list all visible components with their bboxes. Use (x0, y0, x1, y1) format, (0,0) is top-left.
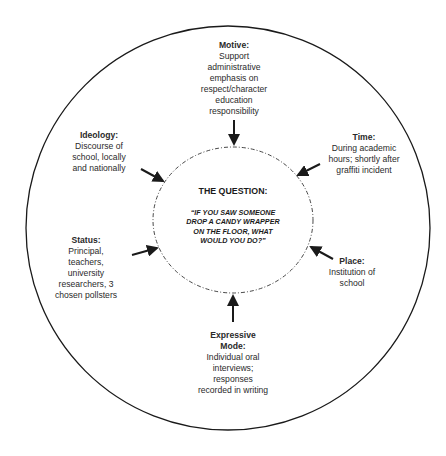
node-line: school (312, 278, 392, 289)
center-title: THE QUESTION: (163, 186, 303, 196)
node-title: Place: (312, 256, 392, 267)
question-line: “IF YOU SAW SOMEONE (163, 208, 303, 217)
node-ideology: Ideology: Discourse of school, locally a… (54, 130, 144, 174)
node-line: university (40, 268, 132, 279)
node-line: interviews; (178, 363, 288, 374)
node-line: Individual oral (178, 352, 288, 363)
node-title: Motive: (184, 40, 284, 51)
node-line: emphasis on (184, 73, 284, 84)
node-line: chosen pollsters (40, 290, 132, 301)
node-title: Time: (314, 132, 414, 143)
node-line: researchers, 3 (40, 279, 132, 290)
node-line: respect/character (184, 84, 284, 95)
node-line: and nationally (54, 163, 144, 174)
node-motive: Motive: Support administrative emphasis … (184, 40, 284, 117)
question-line: DROP A CANDY WRAPPER (163, 217, 303, 226)
arrow-status (132, 248, 157, 255)
center-question: “IF YOU SAW SOMEONE DROP A CANDY WRAPPER… (163, 208, 303, 246)
node-line: Principal, (40, 246, 132, 257)
node-line: responsibility (184, 106, 284, 117)
node-title: Expressive (178, 330, 288, 341)
node-line: education (184, 95, 284, 106)
node-line: graffiti incident (314, 165, 414, 176)
question-line: WOULD YOU DO?” (163, 236, 303, 245)
node-title: Mode: (178, 341, 288, 352)
node-line: recorded in writing (178, 385, 288, 396)
node-line: Support (184, 51, 284, 62)
question-line: ON THE FLOOR, WHAT (163, 227, 303, 236)
node-title: Status: (40, 235, 132, 246)
node-line: Discourse of (54, 141, 144, 152)
node-line: responses (178, 374, 288, 385)
node-line: hours; shortly after (314, 154, 414, 165)
node-line: administrative (184, 62, 284, 73)
node-line: During academic (314, 143, 414, 154)
node-time: Time: During academic hours; shortly aft… (314, 132, 414, 176)
arrow-ideology (141, 169, 163, 181)
node-expressive-mode: Expressive Mode: Individual oral intervi… (178, 330, 288, 396)
node-line: teachers, (40, 257, 132, 268)
node-line: school, locally (54, 152, 144, 163)
node-status: Status: Principal, teachers, university … (40, 235, 132, 301)
node-title: Ideology: (54, 130, 144, 141)
node-line: Institution of (312, 267, 392, 278)
node-place: Place: Institution of school (312, 256, 392, 289)
